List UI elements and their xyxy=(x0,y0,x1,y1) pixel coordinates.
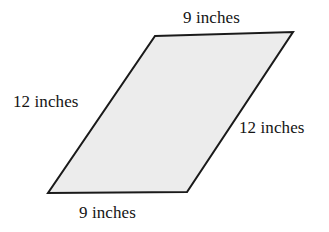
side-label-top: 9 inches xyxy=(183,8,240,28)
side-label-right: 12 inches xyxy=(239,118,305,138)
parallelogram-shape xyxy=(0,0,329,232)
parallelogram-outline xyxy=(48,32,293,193)
parallelogram-figure: 9 inches 12 inches 12 inches 9 inches xyxy=(0,0,329,232)
side-label-left: 12 inches xyxy=(13,92,79,112)
side-label-bottom: 9 inches xyxy=(79,203,136,223)
